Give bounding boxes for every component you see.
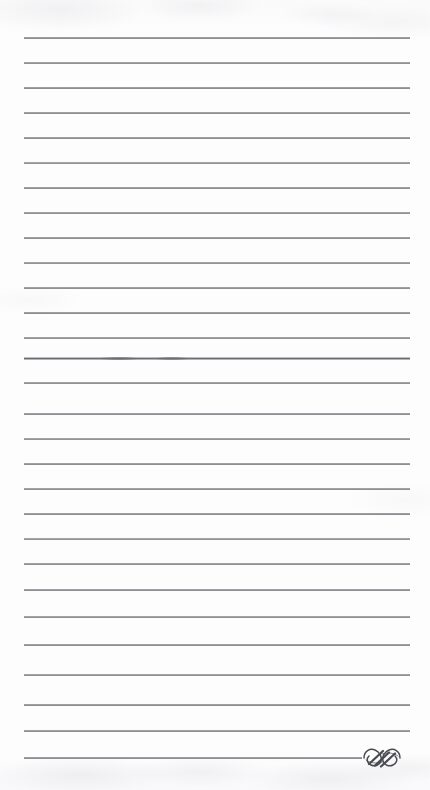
ruled-line xyxy=(24,563,410,565)
ruled-line-stroke xyxy=(24,357,410,360)
ruled-line xyxy=(24,616,410,618)
ruled-line xyxy=(24,137,410,139)
ruled-line xyxy=(24,337,410,339)
ruled-line-stroke xyxy=(24,212,410,214)
ruled-line xyxy=(24,262,410,264)
ruled-line-stroke xyxy=(24,463,410,465)
ruled-line xyxy=(24,589,410,591)
ruled-line-stroke xyxy=(24,616,410,618)
ruled-line-stroke xyxy=(24,488,410,490)
ruled-line-stroke xyxy=(24,312,410,314)
ruled-line-stroke xyxy=(24,112,410,114)
ruled-line xyxy=(24,162,410,164)
ruled-line-stroke xyxy=(24,162,410,164)
ruled-line-stroke xyxy=(24,563,410,565)
ruled-line xyxy=(24,357,410,360)
ruled-line xyxy=(24,187,410,189)
ruled-line xyxy=(24,757,362,759)
ruled-line-stroke xyxy=(24,589,410,591)
ruled-line-stroke xyxy=(24,674,410,676)
ruled-line-stroke xyxy=(24,538,410,540)
ruled-line xyxy=(24,463,410,465)
ruled-line-stroke xyxy=(24,62,410,64)
notepad-page xyxy=(0,0,430,790)
ruled-line-stroke xyxy=(24,513,410,515)
ruled-line xyxy=(24,112,410,114)
ruled-line xyxy=(24,87,410,89)
ruled-line-stroke xyxy=(24,262,410,264)
ruled-line-stroke xyxy=(24,237,410,239)
ruled-line xyxy=(24,438,410,440)
ruled-line-stroke xyxy=(24,287,410,289)
ruled-line-stroke xyxy=(24,644,410,646)
ruled-line xyxy=(24,513,410,515)
ruled-line-stroke xyxy=(24,757,362,759)
ruled-line xyxy=(24,730,410,732)
ruled-line xyxy=(24,488,410,490)
ruled-line xyxy=(24,413,410,415)
ruled-line xyxy=(24,674,410,676)
ruled-lines-layer xyxy=(0,0,430,790)
ruled-line xyxy=(24,538,410,540)
ruled-line-stroke xyxy=(24,137,410,139)
ruled-line xyxy=(24,212,410,214)
ruled-line-stroke xyxy=(24,187,410,189)
ruled-line xyxy=(24,237,410,239)
ruled-line xyxy=(24,287,410,289)
ruled-line-stroke xyxy=(24,413,410,415)
ruled-line-stroke xyxy=(24,438,410,440)
ruled-line-stroke xyxy=(24,337,410,339)
ruled-line xyxy=(24,62,410,64)
ruled-line xyxy=(24,704,410,706)
ruled-line xyxy=(24,382,410,384)
ruled-line-stroke xyxy=(24,730,410,732)
ruled-line xyxy=(24,312,410,314)
ruled-line-stroke xyxy=(24,382,410,384)
ruled-line xyxy=(24,37,410,39)
ruled-line-stroke xyxy=(24,704,410,706)
ruled-line-stroke xyxy=(24,37,410,39)
ruled-line xyxy=(24,644,410,646)
ruled-line-stroke xyxy=(24,87,410,89)
